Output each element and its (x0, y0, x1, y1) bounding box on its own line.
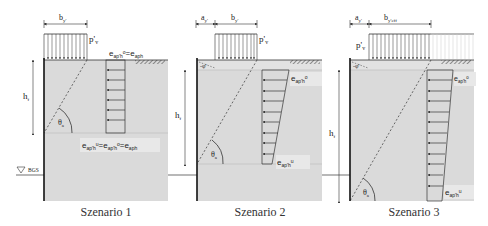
load-label: p'v (259, 34, 268, 45)
scenario-1-caption: Szenario 1 (56, 205, 156, 220)
faded-load-part (433, 34, 473, 59)
load-label: p'v (356, 40, 365, 51)
top-pressure-label: eap'ho=eaph (109, 49, 143, 59)
offset-dimension: ay' (196, 13, 215, 28)
height-label: hf (23, 91, 30, 102)
width-dimension: by' (44, 13, 87, 28)
svg-text:by': by' (231, 13, 239, 23)
ground-hatch (441, 60, 471, 64)
scenario-1-panel: p'v by' θa hf eap'ho=eaph eap'hu=eap'ho=… (16, 13, 168, 201)
load-label: p'v (89, 34, 98, 45)
slope-angle-label: -φ' (200, 63, 207, 69)
ground-hatch (290, 60, 320, 64)
width-dimension: by' (215, 13, 257, 28)
svg-text:ay': ay' (201, 13, 208, 23)
scenario-2-panel: p'v ay' by' -φ' θa hf (175, 13, 322, 201)
diagram-canvas: p'v by' θa hf eap'ho=eaph eap'hu=eap'ho=… (0, 0, 488, 226)
offset-dimension: ay' (350, 13, 369, 28)
svg-text:by': by' (59, 13, 67, 23)
svg-text:ay': ay' (355, 13, 362, 23)
ground-hatch (135, 60, 165, 64)
scenario-3-panel: p'v ay' by'eff -φ' θa hf (329, 13, 476, 201)
water-level-icon (17, 167, 25, 173)
scenario-3-caption: Szenario 3 (364, 205, 464, 220)
height-label: hf (175, 110, 182, 121)
width-dimension: by'eff (369, 13, 431, 28)
scenario-2-caption: Szenario 2 (210, 205, 310, 220)
water-level-label: BGS (28, 167, 39, 173)
surcharge-load (369, 34, 474, 60)
surcharge-load (215, 34, 257, 60)
slope-angle-label: -φ' (353, 63, 360, 69)
height-label: hf (329, 128, 336, 139)
svg-text:by'eff: by'eff (384, 13, 397, 23)
earth-pressure-scenarios-figure: p'v by' θa hf eap'ho=eaph eap'hu=eap'ho=… (0, 0, 488, 226)
surcharge-load (44, 34, 87, 60)
